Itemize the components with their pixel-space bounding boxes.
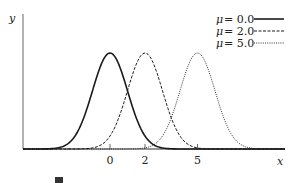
curves: [23, 53, 285, 149]
x-ticks: 025: [107, 144, 202, 167]
curve-dotted: [23, 53, 285, 149]
legend-entry: μ= 5.0: [216, 37, 284, 50]
x-axis-label: x: [277, 155, 284, 168]
x-tick-label: 0: [107, 154, 114, 167]
gaussian-chart: y x 025 μ= 0.0μ= 2.0μ= 5.0: [0, 0, 294, 183]
curve-dashed: [23, 53, 285, 149]
x-tick-label: 5: [194, 154, 201, 167]
legend-value: = 5.0: [224, 37, 254, 50]
x-tick-label: 2: [142, 154, 149, 167]
partial-caption-glyph: [55, 177, 63, 183]
legend: μ= 0.0μ= 2.0μ= 5.0: [216, 13, 284, 50]
legend-symbol: μ: [216, 37, 223, 50]
y-axis-label: y: [8, 12, 16, 25]
curve-solid: [23, 53, 285, 149]
